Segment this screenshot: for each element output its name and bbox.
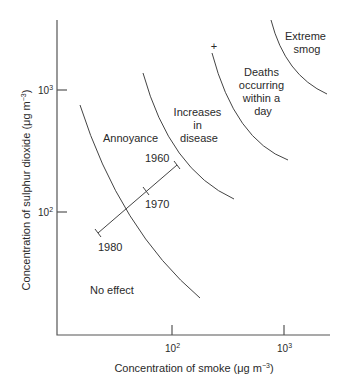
region-label-annoyance: Annoyance <box>103 132 158 144</box>
year-label-1970: 1970 <box>145 198 169 210</box>
year-label-1980: 1980 <box>98 241 122 253</box>
region-label-extreme-smog: Extreme smog <box>285 30 329 55</box>
trend-endcap-1980 <box>95 229 101 237</box>
chart-figure: 103 102 102 103 Concentration of smoke (… <box>0 0 348 391</box>
trend-endcap-1960 <box>174 161 180 169</box>
y-tick-label-100: 102 <box>38 206 53 218</box>
x-tick-label-100: 102 <box>165 342 180 354</box>
y-tick-label-1000: 103 <box>38 84 53 96</box>
x-tick-label-1000: 103 <box>277 342 292 354</box>
region-label-deaths-within-a-day: Deaths occurring within a day <box>239 66 287 117</box>
plus-marker: + <box>211 40 217 52</box>
y-axis-title: Concentration of sulphur dioxide (μg m−3… <box>20 90 32 291</box>
region-label-increases-in-disease: Increases in disease <box>174 106 225 144</box>
x-axis-title: Concentration of smoke (μg m−3) <box>114 362 273 374</box>
year-label-1960: 1960 <box>145 152 169 164</box>
region-label-no-effect: No effect <box>90 284 134 296</box>
